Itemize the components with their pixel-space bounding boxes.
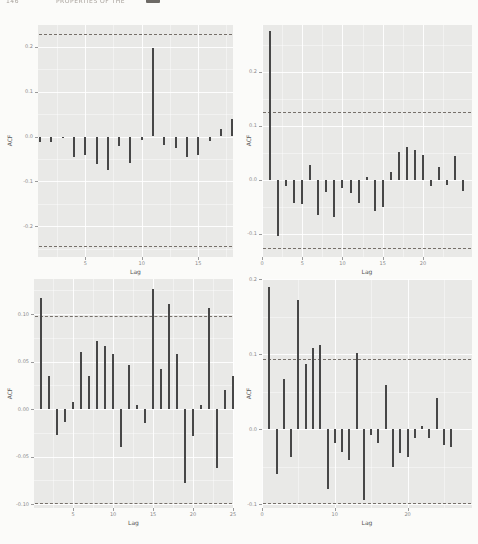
y-tick-label: -0.05 [7,454,29,459]
acf-bar-lag-4 [290,429,292,457]
acf-bar-lag-16 [209,137,211,141]
acf-bar-lag-21 [200,405,202,409]
gridline-minor [38,69,233,70]
acf-bar-lag-8 [96,341,98,409]
plot-panel-bottom-right [262,279,472,508]
page: 146 PROPERTIES OF THE 0.20.10.0-0.1-0.25… [0,0,478,544]
acf-bar-lag-5 [301,180,303,204]
x-tick-label: 15 [188,261,208,266]
acf-bar-lag-21 [414,429,416,438]
gridline-minor [403,25,404,257]
gridline-minor [38,114,233,115]
acf-bar-lag-17 [220,129,222,136]
acf-bar-lag-2 [48,376,50,409]
acf-bar-lag-23 [216,409,218,468]
acf-bar-lag-9 [104,346,106,409]
gridline-minor [170,25,171,257]
gridline-major [34,504,233,505]
y-axis-title: ACF [245,131,252,151]
x-tick-label: 5 [63,512,83,517]
acf-bar-lag-13 [356,353,358,429]
acf-bar-lag-4 [64,409,66,421]
acf-bar-lag-7 [107,137,109,171]
y-tick-label: -0.1 [235,502,257,507]
acf-bar-lag-1 [268,287,270,430]
gridline-major [302,25,303,257]
acf-bar-lag-12 [358,180,360,203]
gridline-minor [322,25,323,257]
y-tick-mark [259,504,262,505]
y-tick-label: 0.05 [7,359,29,364]
gridline-major [73,279,74,508]
acf-bar-lag-4 [293,180,295,203]
gridline-minor [93,279,94,508]
y-tick-mark [259,279,262,280]
acf-bar-lag-18 [406,147,408,179]
x-tick-label: 10 [325,512,345,517]
confidence-line-lower [35,503,232,504]
x-axis-title: Lag [121,268,151,275]
gridline-minor [262,392,472,393]
gridline-minor [173,279,174,508]
y-axis-title: ACF [6,131,13,151]
x-tick-label: 5 [75,261,95,266]
y-tick-label: -0.1 [235,231,257,236]
y-tick-mark [259,180,262,181]
acf-bar-lag-5 [72,402,74,410]
y-tick-label: -0.10 [7,502,29,507]
page-number-fragment: 146 [6,0,19,4]
confidence-line-upper [39,34,232,35]
acf-bar-lag-22 [421,426,423,429]
acf-bar-lag-16 [160,369,162,409]
gridline-major [262,279,263,508]
x-tick-label: 20 [413,261,433,266]
x-tick-label: 10 [332,261,352,266]
acf-bar-lag-19 [414,150,416,180]
acf-bar-lag-24 [436,398,438,429]
gridline-minor [34,433,233,434]
acf-bar-lag-9 [333,180,335,217]
gridline-major [262,72,472,73]
acf-bar-lag-25 [232,376,234,409]
acf-bar-lag-7 [317,180,319,215]
confidence-line-lower [39,246,232,247]
acf-bar-lag-15 [382,180,384,207]
confidence-line-upper [263,112,471,113]
gridline-minor [34,338,233,339]
y-tick-mark [31,457,34,458]
acf-bar-lag-18 [231,119,233,136]
gridline-minor [133,279,134,508]
acf-bar-lag-19 [184,409,186,483]
y-tick-mark [259,234,262,235]
acf-bar-lag-1 [40,298,42,409]
gridline-major [342,25,343,257]
plot-panel-top-left [38,25,233,257]
gridline-minor [53,279,54,508]
gridline-minor [262,207,472,208]
acf-bar-lag-6 [80,352,82,409]
y-tick-label: -0.1 [11,179,33,184]
acf-plot-top-right: 0.20.10.0-0.105101520LagACF [239,10,478,276]
gridline-minor [34,290,233,291]
y-tick-mark [35,226,38,227]
acf-bar-lag-9 [129,137,131,163]
acf-bar-lag-17 [398,152,400,180]
gridline-major [408,279,409,508]
acf-bar-lag-12 [348,429,350,460]
acf-bar-lag-14 [186,137,188,157]
acf-bar-lag-7 [88,376,90,409]
acf-bar-lag-22 [208,308,210,410]
confidence-line-upper [263,359,471,360]
gridline-minor [213,279,214,508]
gridline-minor [282,25,283,257]
y-tick-label: 0.0 [11,134,33,139]
acf-bar-lag-8 [325,180,327,192]
x-tick-label: 15 [373,261,393,266]
gridline-minor [443,25,444,257]
y-tick-label: 0.00 [7,407,29,412]
confidence-line-lower [263,503,471,504]
acf-bar-lag-2 [277,180,279,237]
x-axis-title: Lag [352,268,382,275]
gridline-minor [57,25,58,257]
acf-bar-lag-3 [283,379,285,429]
